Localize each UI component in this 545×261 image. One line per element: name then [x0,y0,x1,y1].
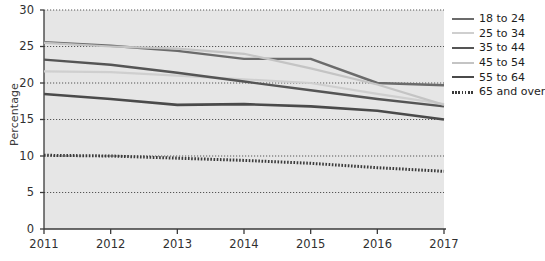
legend-item[interactable]: 35 to 44 [452,41,540,56]
chart-legend: 18 to 2425 to 3435 to 4445 to 5455 to 64… [452,12,540,100]
legend-item-label: 55 to 64 [479,72,525,84]
x-tick-label: 2014 [222,237,266,251]
x-tick-label: 2017 [422,237,466,251]
legend-line-swatch-icon [452,14,474,25]
x-tick-label: 2012 [89,237,133,251]
legend-item-label: 35 to 44 [479,42,525,54]
legend-line-swatch-icon [452,28,474,39]
legend-line-swatch-icon [452,43,474,54]
x-tick-label: 2013 [155,237,199,251]
legend-item[interactable]: 55 to 64 [452,70,540,85]
legend-line-swatch-icon [452,58,474,69]
legend-item[interactable]: 65 and over [452,85,540,100]
legend-line-swatch-icon [452,87,474,98]
x-tick-label: 2016 [355,237,399,251]
legend-line-swatch-icon [452,72,474,83]
legend-item-label: 45 to 54 [479,57,525,69]
legend-item-label: 65 and over [479,86,545,98]
legend-item[interactable]: 18 to 24 [452,12,540,27]
x-tick-label: 2011 [22,237,66,251]
legend-item-label: 25 to 34 [479,28,525,40]
legend-item[interactable]: 45 to 54 [452,56,540,71]
legend-item[interactable]: 25 to 34 [452,27,540,42]
x-tick-label: 2015 [289,237,333,251]
legend-item-label: 18 to 24 [479,13,525,25]
